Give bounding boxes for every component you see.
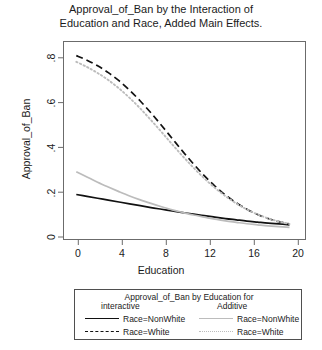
y-axis-label: Approval_of_Ban: [20, 69, 32, 209]
x-tick-12: 12: [199, 247, 221, 259]
x-axis-label: Education: [0, 264, 322, 276]
legend-item-label: Race=White: [237, 327, 284, 337]
legend-item-label: Race=White: [123, 327, 170, 337]
y-tick-0-2: .2: [45, 184, 57, 202]
chart-legend: Approval_of_Ban by Education for interac…: [74, 289, 302, 340]
legend-item-label: Race=NonWhite: [123, 314, 185, 324]
y-tick-0-8: .8: [45, 49, 57, 67]
legend-group-interactive: interactive: [101, 301, 140, 311]
chart-figure: Approval_of_Ban by the Interaction of Ed…: [0, 0, 322, 350]
y-tick-0-4: .4: [45, 139, 57, 157]
plot-area: [0, 0, 322, 262]
x-tick-20: 20: [287, 247, 309, 259]
legend-item-label: Race=NonWhite: [237, 314, 299, 324]
x-tick-4: 4: [111, 247, 133, 259]
x-axis-ticks: [78, 240, 298, 246]
line-sample-solid-gray-icon: [199, 318, 233, 319]
legend-group-additive: Additive: [217, 301, 247, 311]
line-sample-dashed-black-icon: [85, 331, 119, 332]
x-tick-8: 8: [155, 247, 177, 259]
x-tick-0: 0: [67, 247, 89, 259]
x-tick-16: 16: [243, 247, 265, 259]
y-tick-0-6: .6: [45, 94, 57, 112]
line-sample-solid-black-icon: [85, 318, 119, 319]
y-tick-0: 0: [45, 228, 57, 246]
y-axis-ticks: [58, 58, 64, 237]
plot-frame: [64, 42, 306, 240]
line-sample-dotted-gray-icon: [199, 331, 233, 332]
